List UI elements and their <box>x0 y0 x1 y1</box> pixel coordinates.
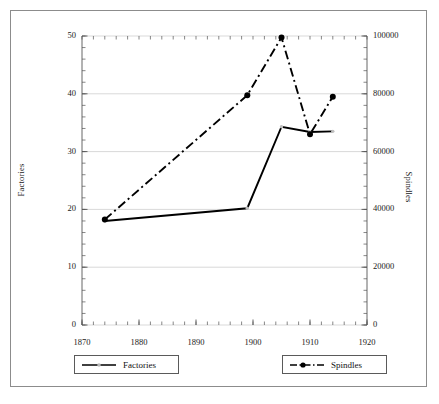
x-tick-label-1900: 1900 <box>233 337 273 347</box>
y-left-tick-label-40: 40 <box>45 88 76 98</box>
legend-swatch-spindles <box>289 359 325 371</box>
y-axis-left-title: Factories <box>16 150 26 210</box>
y-left-tick-label-30: 30 <box>45 146 76 156</box>
major-tick-marks <box>82 36 367 325</box>
chart-figure: 1870188018901900191019200102030405002000… <box>0 0 439 404</box>
x-tick-label-1890: 1890 <box>176 337 216 347</box>
series-marker-spindles-0 <box>102 217 108 223</box>
y-right-tick-label-20000: 20000 <box>373 261 418 271</box>
legend-swatch-factories <box>81 359 117 371</box>
y-left-tick-label-0: 0 <box>45 319 76 329</box>
series-line-factories <box>105 127 333 221</box>
y-left-tick-label-50: 50 <box>45 30 76 40</box>
y-right-tick-label-0: 0 <box>373 319 418 329</box>
series-vertex-factories-2 <box>280 125 283 128</box>
legend-item-spindles[interactable]: Spindles <box>282 355 387 374</box>
minor-tick-marks <box>82 36 367 325</box>
series-marker-spindles-1 <box>244 92 250 98</box>
series-marker-spindles-3 <box>307 131 313 137</box>
y-axis-right-title: Spindles <box>404 157 414 217</box>
gridlines <box>82 36 367 325</box>
legend-label-factories: Factories <box>123 360 156 370</box>
y-right-tick-label-60000: 60000 <box>373 146 418 156</box>
data-series-layer <box>102 34 336 222</box>
y-right-tick-label-100000: 100000 <box>373 30 418 40</box>
axis-lines <box>82 36 367 325</box>
series-marker-spindles-2 <box>279 34 285 40</box>
legend-item-factories[interactable]: Factories <box>74 355 179 374</box>
y-left-tick-label-20: 20 <box>45 203 76 213</box>
series-vertex-factories-4 <box>331 130 334 133</box>
x-tick-label-1870: 1870 <box>62 337 102 347</box>
y-right-tick-label-80000: 80000 <box>373 88 418 98</box>
x-tick-label-1920: 1920 <box>347 337 387 347</box>
legend-label-spindles: Spindles <box>331 360 362 370</box>
y-left-tick-label-10: 10 <box>45 261 76 271</box>
x-tick-label-1910: 1910 <box>290 337 330 347</box>
series-line-spindles <box>105 37 333 219</box>
series-vertex-factories-1 <box>246 207 249 210</box>
x-tick-label-1880: 1880 <box>119 337 159 347</box>
series-marker-spindles-4 <box>330 94 336 100</box>
